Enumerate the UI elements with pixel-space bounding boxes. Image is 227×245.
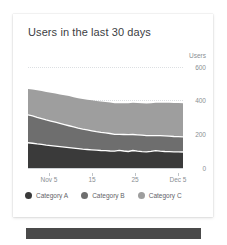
legend-swatch-icon-category-a bbox=[25, 192, 32, 199]
x-tick-label-nov-5: Nov 5 bbox=[41, 176, 58, 183]
legend-label-category-a: Category A bbox=[36, 192, 68, 199]
x-tick-label-25: 25 bbox=[131, 176, 138, 183]
legend-label-category-b: Category B bbox=[92, 192, 125, 199]
legend-swatch-icon-category-b bbox=[81, 192, 88, 199]
chart-plot-area: Users 600 400 200 0 Nov 5 15 25 Dec 5 bbox=[13, 14, 213, 217]
legend-label-category-c: Category C bbox=[149, 192, 182, 199]
x-tick-label-dec-5: Dec 5 bbox=[170, 176, 187, 183]
legend-item-category-a[interactable]: Category A bbox=[25, 192, 68, 199]
legend-item-category-c[interactable]: Category C bbox=[138, 192, 182, 199]
legend-item-category-b[interactable]: Category B bbox=[81, 192, 125, 199]
legend-swatch-icon-category-c bbox=[138, 192, 145, 199]
stacked-area-series bbox=[13, 14, 213, 217]
chart-legend: Category A Category B Category C bbox=[25, 192, 182, 199]
chart-card: Users in the last 30 days Users 600 400 … bbox=[13, 14, 213, 217]
bottom-bar bbox=[26, 228, 201, 239]
x-tick-label-15: 15 bbox=[88, 176, 95, 183]
